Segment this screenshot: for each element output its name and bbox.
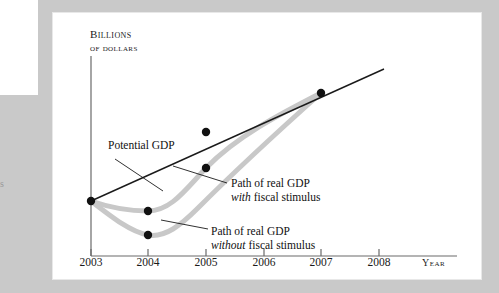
chart-plot-area: Billions of dollars 2003 2004 2005 2006 … — [53, 13, 481, 279]
chart-panel: Billions of dollars 2003 2004 2005 2006 … — [52, 12, 482, 280]
annotation-with-stimulus-emphasis: with — [231, 191, 251, 203]
marker-2005-potential — [202, 128, 210, 136]
marker-2004-without-stimulus — [144, 231, 152, 239]
marker-2007-converged — [317, 89, 325, 97]
annotation-potential-gdp: Potential GDP — [108, 138, 175, 152]
x-tick-label-2006: 2006 — [253, 256, 276, 268]
x-tick-label-2007: 2007 — [310, 256, 333, 268]
marker-2003-origin — [87, 197, 95, 205]
annotation-without-stimulus-emphasis: without — [211, 239, 246, 251]
annotation-without-stimulus: Path of real GDP without fiscal stimulus — [211, 224, 315, 252]
annotation-potential-gdp-text: Potential GDP — [108, 139, 175, 151]
y-axis-label-line1: Billions — [90, 28, 132, 40]
y-axis-label-line2: of dollars — [90, 42, 138, 53]
marker-2004-with-stimulus — [144, 207, 152, 215]
with-stimulus-leader — [173, 166, 227, 183]
annotation-without-stimulus-line1: Path of real GDP — [211, 225, 290, 237]
x-tick-label-2004: 2004 — [137, 256, 160, 268]
annotation-with-stimulus-line1: Path of real GDP — [231, 177, 310, 189]
annotation-without-stimulus-line2: fiscal stimulus — [246, 239, 316, 251]
x-tick-label-2005: 2005 — [195, 256, 218, 268]
annotation-with-stimulus: Path of real GDP with fiscal stimulus — [231, 176, 320, 204]
x-axis-label: Year — [422, 257, 445, 268]
annotation-with-stimulus-line2: fiscal stimulus — [251, 191, 321, 203]
x-tick-label-2008: 2008 — [368, 256, 391, 268]
x-tick-label-2003: 2003 — [80, 256, 103, 268]
margin-edge-glyph: s — [0, 178, 4, 189]
marker-2005-without-stimulus — [202, 164, 210, 172]
